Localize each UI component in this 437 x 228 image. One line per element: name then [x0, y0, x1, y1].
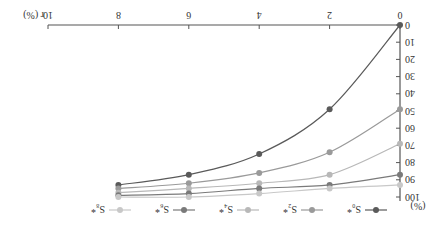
data-point — [397, 141, 403, 147]
x-axis-label: r (%) — [23, 9, 44, 21]
x-tick-label: 10 — [43, 10, 53, 21]
data-point — [327, 106, 333, 112]
x-tick-label: 6 — [186, 10, 191, 21]
data-point — [397, 22, 403, 28]
y-axis-label: (%) — [411, 200, 426, 212]
data-point — [397, 172, 403, 178]
data-point — [256, 185, 262, 191]
x-tick-label: 0 — [398, 10, 403, 21]
series-1 — [115, 106, 403, 191]
y-tick-label: 30 — [405, 71, 415, 82]
data-point — [186, 172, 192, 178]
legend-item: S₆* — [155, 204, 195, 215]
legend-item: S₈* — [91, 204, 131, 215]
y-tick-label: 10 — [405, 37, 415, 48]
data-point — [256, 191, 262, 197]
legend-item: S₄* — [219, 204, 259, 215]
data-point — [327, 185, 333, 191]
y-tick-label: 90 — [405, 174, 415, 185]
line-chart: 0246810r (%)0102030405060708090100(%)S₀*… — [0, 0, 437, 228]
legend-marker-icon — [373, 207, 379, 213]
legend-label: S₂* — [283, 204, 297, 215]
x-tick-label: 8 — [116, 10, 121, 21]
legend-label: S₄* — [219, 204, 233, 215]
y-tick-label: 70 — [405, 140, 415, 151]
legend: S₀*S₂*S₄*S₆*S₈* — [91, 204, 387, 215]
data-point — [186, 185, 192, 191]
y-tick-label: 50 — [405, 106, 415, 117]
data-point — [115, 194, 121, 200]
legend-item: S₂* — [283, 204, 323, 215]
y-tick-label: 60 — [405, 123, 415, 134]
legend-label: S₀* — [347, 204, 361, 215]
legend-label: S₆* — [155, 204, 169, 215]
legend-label: S₈* — [91, 204, 105, 215]
legend-marker-icon — [309, 207, 315, 213]
legend-marker-icon — [245, 207, 251, 213]
data-point — [256, 180, 262, 186]
data-point — [256, 170, 262, 176]
x-tick-label: 2 — [327, 10, 332, 21]
axes: 0246810r (%)0102030405060708090100(%) — [23, 9, 425, 212]
data-point — [186, 194, 192, 200]
y-tick-label: 20 — [405, 54, 415, 65]
data-point — [186, 180, 192, 186]
legend-marker-icon — [117, 207, 123, 213]
y-tick-label: 0 — [405, 20, 410, 31]
data-point — [397, 106, 403, 112]
legend-item: S₀* — [347, 204, 387, 215]
x-tick-label: 4 — [257, 10, 262, 21]
data-point — [327, 172, 333, 178]
series-line — [118, 25, 400, 185]
y-tick-label: 40 — [405, 88, 415, 99]
series-line — [118, 109, 400, 188]
chart-stage: 0246810r (%)0102030405060708090100(%)S₀*… — [0, 0, 437, 228]
data-point — [327, 149, 333, 155]
y-tick-label: 80 — [405, 157, 415, 168]
legend-marker-icon — [181, 207, 187, 213]
data-point — [256, 151, 262, 157]
data-point — [397, 182, 403, 188]
